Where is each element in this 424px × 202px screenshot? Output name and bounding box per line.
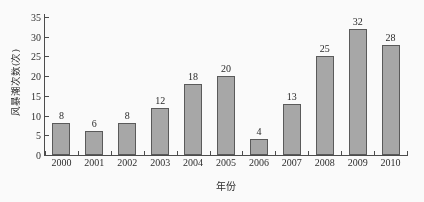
bar [184,84,202,155]
x-axis-tick [341,151,342,155]
y-axis-tick-label: 10 [31,110,41,121]
x-axis-tick [177,151,178,155]
y-axis-tick-label: 35 [31,12,41,23]
bar-value-label: 6 [92,118,97,129]
x-axis-tick [242,151,243,155]
x-axis-tick [210,151,211,155]
x-axis-tick-label: 2007 [282,157,302,168]
y-axis-line [44,14,45,155]
y-axis-tick-label: 25 [31,51,41,62]
y-axis-tick-label: 30 [31,31,41,42]
bar-value-label: 18 [188,71,198,82]
x-axis-tick [374,151,375,155]
bar [217,76,235,155]
storm-surge-bar-chart: 风暴潮次数(次) 05101520253035 8681218204132532… [0,0,424,202]
y-axis-tick-label: 20 [31,71,41,82]
bar [283,104,301,155]
bar-value-label: 8 [125,110,130,121]
x-axis-tick [407,151,408,155]
bar-value-label: 13 [287,91,297,102]
x-axis-tick-label: 2000 [51,157,71,168]
x-axis-tick-label: 2002 [117,157,137,168]
y-axis-tick [45,135,49,136]
x-axis-tick [78,151,79,155]
x-axis-tick [144,151,145,155]
bar-value-label: 32 [353,16,363,27]
x-axis-tick-label: 2005 [216,157,236,168]
bar-value-label: 28 [386,32,396,43]
y-axis-tick-label: 5 [36,130,41,141]
x-axis-tick-label: 2003 [150,157,170,168]
bar [118,123,136,155]
y-axis-tick [45,37,49,38]
y-axis-tick [45,96,49,97]
x-axis-tick-label: 2008 [315,157,335,168]
x-axis-tick [45,151,46,155]
x-axis-tick-label: 2009 [348,157,368,168]
bar [52,123,70,155]
y-axis-title: 风暴潮次数(次) [8,5,24,160]
x-axis-line [44,155,408,156]
x-axis-tick [111,151,112,155]
x-axis-tick [275,151,276,155]
bar [85,131,103,155]
bar [250,139,268,155]
y-axis-tick-label: 0 [36,150,41,161]
bar-value-label: 20 [221,63,231,74]
y-axis-tick-label: 15 [31,90,41,101]
x-axis-tick [308,151,309,155]
y-axis-tick [45,155,49,156]
bar [316,56,334,155]
y-axis-tick [45,56,49,57]
y-axis-tick [45,116,49,117]
x-axis-tick-label: 2006 [249,157,269,168]
plot-area: 05101520253035 868121820413253228 200020… [45,17,407,155]
bar-value-label: 25 [320,43,330,54]
bar [349,29,367,155]
bar [382,45,400,155]
x-axis-tick-label: 2001 [84,157,104,168]
x-axis-tick-label: 2010 [381,157,401,168]
bar-value-label: 4 [256,126,261,137]
y-axis-tick [45,17,49,18]
bar [151,108,169,155]
bar-value-label: 8 [59,110,64,121]
x-axis-title: 年份 [45,178,407,193]
y-axis-tick [45,76,49,77]
x-axis-tick-label: 2004 [183,157,203,168]
bar-value-label: 12 [155,95,165,106]
